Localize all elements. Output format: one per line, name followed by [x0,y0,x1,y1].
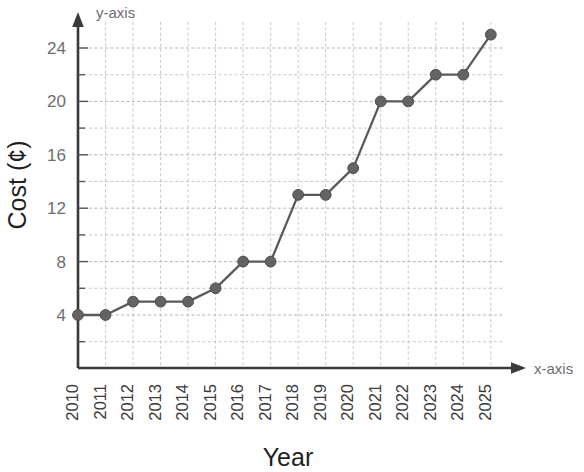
x-axis-tick-label: 2019 [311,384,329,421]
x-axis-tick-label: 2013 [146,384,164,421]
x-axis-arrowhead [511,362,526,374]
data-point [293,189,304,200]
data-point [348,163,359,174]
x-axis-tick-label: 2015 [201,384,219,421]
x-axis-tick-label: 2016 [228,384,246,421]
x-axis-tick-label: 2025 [476,384,494,421]
data-point [155,296,166,307]
y-axis-tick-label: 12 [47,199,66,218]
data-point [430,69,441,80]
data-point [128,296,139,307]
y-axis-tick-label: 24 [47,39,66,58]
y-axis-tick-label: 20 [47,92,66,111]
x-axis-tick-label: 2014 [173,384,191,421]
data-point [183,296,194,307]
x-axis-tick-label: 2012 [118,384,136,421]
y-axis-tick-label: 4 [57,306,66,325]
data-point [375,96,386,107]
y-axis-tick-labels: 4812162024 [47,39,66,325]
x-axis-tick-labels: 2010201120122013201420152016201720182019… [63,384,494,421]
series-line-cost [78,35,491,315]
y-axis-tick-label: 8 [57,253,66,272]
data-point [100,310,111,321]
chart-canvas: 4812162024 20102011201220132014201520162… [0,0,584,472]
horizontal-gridlines [78,48,503,342]
data-point [485,29,496,40]
x-axis-tick-label: 2020 [338,384,356,421]
data-point [320,189,331,200]
data-point [210,283,221,294]
data-point [73,310,84,321]
x-axis-tick-label: 2022 [393,384,411,421]
line-chart: 4812162024 20102011201220132014201520162… [0,0,584,472]
x-axis-tick-label: 2017 [256,384,274,421]
data-point [238,256,249,267]
x-axis-tick-label: 2011 [91,384,109,419]
x-axis-tick-label: 2010 [63,384,81,421]
y-axis-tick-label: 16 [47,146,66,165]
x-axis-tick-label: 2021 [366,384,384,421]
series-markers-cost [73,29,497,320]
data-point [403,96,414,107]
data-point [265,256,276,267]
x-axis-tick-label: 2024 [448,384,466,421]
x-axis-title: Year [263,443,314,471]
y-axis-arrowhead [72,12,84,27]
y-axis-title: Cost (¢) [3,141,31,230]
data-point [458,69,469,80]
vertical-gridlines [78,22,491,368]
x-axis-name-label: x-axis [534,360,573,377]
x-axis-tick-label: 2018 [283,384,301,421]
x-axis-tick-label: 2023 [421,384,439,421]
y-axis-ticks [78,48,88,342]
y-axis-name-label: y-axis [96,4,135,21]
